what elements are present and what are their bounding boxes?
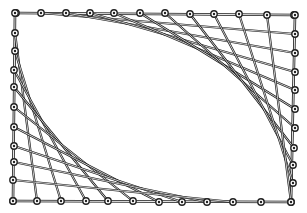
nail-head [238, 13, 240, 15]
nail-head [13, 161, 15, 163]
nail-head [294, 127, 296, 129]
nail-head [294, 52, 296, 54]
nail-head [132, 200, 134, 202]
nail-head [294, 14, 296, 16]
nail-head [40, 12, 42, 14]
nail-head [14, 12, 16, 14]
nail-head [85, 200, 87, 202]
nail-head [14, 32, 16, 34]
nail-head [158, 201, 160, 203]
string-line-highlight [66, 13, 295, 53]
nail-head [189, 13, 191, 15]
nail-head [294, 108, 296, 110]
nail-head [89, 12, 91, 14]
nail-head [293, 147, 295, 149]
nail-head [14, 50, 16, 52]
nail-head [294, 33, 296, 35]
nail-head [213, 13, 215, 15]
nail-head [181, 201, 183, 203]
nail-head [60, 200, 62, 202]
nail-head [266, 14, 268, 16]
nail-head [292, 182, 294, 184]
nail-head [290, 201, 292, 203]
nail-head [139, 12, 141, 14]
nail-head [206, 201, 208, 203]
nail-head [113, 12, 115, 14]
nail-head [260, 201, 262, 203]
nail-head [294, 89, 296, 91]
string-line-highlight [190, 14, 294, 148]
frame-lines [13, 13, 295, 202]
nail-head [65, 12, 67, 14]
nail-head [13, 126, 15, 128]
nail-head [107, 200, 109, 202]
nail-head [12, 179, 14, 181]
nail-head [232, 201, 234, 203]
string-art-figure [0, 0, 307, 213]
nail-head [294, 71, 296, 73]
string-line-highlight [165, 13, 295, 128]
nail-head [13, 145, 15, 147]
nail-head [13, 106, 15, 108]
nail-head [13, 69, 15, 71]
string-lines [13, 13, 295, 202]
nail-head [12, 200, 14, 202]
nail-head [292, 164, 294, 166]
string-line-highlight [90, 13, 295, 72]
string-line-highlight [267, 15, 291, 202]
nail-head [13, 86, 15, 88]
nail-head [164, 12, 166, 14]
nail-head [36, 200, 38, 202]
